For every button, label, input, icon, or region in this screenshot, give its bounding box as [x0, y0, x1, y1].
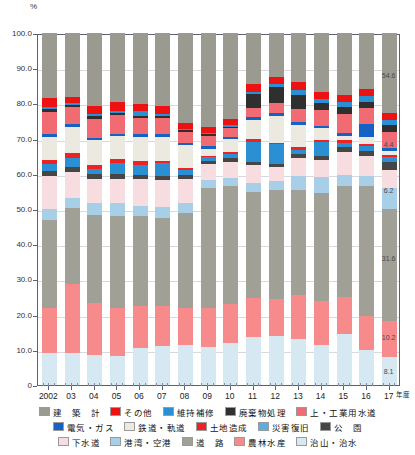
bar-09: [201, 33, 216, 385]
x-axis-minor-tick: [116, 383, 117, 386]
y-axis-tick-label: 100.0: [2, 29, 32, 38]
legend-item[interactable]: 建 築 計: [39, 406, 101, 418]
legend-item[interactable]: 鉄道・軌道: [124, 421, 186, 433]
x-axis-minor-tick: [247, 383, 248, 386]
bar-segment: [155, 106, 170, 114]
x-axis-minor-tick: [71, 383, 72, 386]
x-axis-minor-tick: [43, 383, 44, 386]
bar-16: [359, 33, 374, 385]
legend-item[interactable]: その他: [110, 406, 153, 418]
legend-item[interactable]: 電気・ガス: [53, 421, 115, 433]
legend-item[interactable]: 維持補修: [163, 406, 215, 418]
bar-segment: [65, 127, 80, 153]
bar-segment: [337, 175, 352, 186]
y-axis-tick-label: 30.0: [2, 275, 32, 284]
y-axis-tick-label: 20.0: [2, 311, 32, 320]
bar-segment: [223, 33, 238, 119]
bar-segment: [291, 125, 306, 148]
x-axis-minor-tick: [349, 383, 350, 386]
bar-segment: [246, 192, 261, 298]
x-axis-tick-mark: [116, 386, 117, 390]
bar-04: [87, 33, 102, 385]
bar-segment: [155, 180, 170, 207]
bar-segment: [246, 183, 261, 192]
x-axis-minor-tick: [315, 383, 316, 386]
x-axis-minor-tick: [201, 383, 202, 386]
x-axis-minor-tick: [360, 383, 361, 386]
legend-item[interactable]: 農林水産: [234, 436, 286, 448]
bar-segment: [314, 193, 329, 300]
x-axis-minor-tick: [281, 383, 282, 386]
y-axis-tick-label: 40.0: [2, 240, 32, 249]
x-axis-minor-tick: [372, 383, 373, 386]
x-axis-tick-mark: [162, 386, 163, 390]
bar-segment: [269, 181, 284, 189]
bar-segment: [291, 95, 306, 109]
bar-segment: [42, 33, 57, 98]
bar-05: [110, 33, 125, 385]
y-axis-tick-label: 80.0: [2, 99, 32, 108]
bar-segment: [65, 353, 80, 385]
bar-segment: [87, 355, 102, 385]
bar-segment: [42, 220, 57, 308]
legend-item[interactable]: 治山・治水: [296, 436, 358, 448]
y-axis-tick-label: 0: [2, 381, 32, 390]
bar-segment: [246, 337, 261, 385]
bar-segment: [246, 142, 261, 161]
legend-item[interactable]: 災害復旧: [258, 421, 310, 433]
bar-13: [291, 33, 306, 385]
bar-segment: [359, 108, 374, 124]
bar-segment: [133, 118, 148, 134]
bar-10: [223, 33, 238, 385]
legend-item[interactable]: 土地造成: [196, 421, 248, 433]
bar-segment: [359, 124, 374, 136]
legend-item[interactable]: 道 路: [182, 436, 225, 448]
bar-segment: [65, 33, 80, 97]
bar-segment: [87, 303, 102, 355]
legend-item[interactable]: 廃棄物処理: [225, 406, 287, 418]
bar-segment: [359, 176, 374, 187]
bar-segment: [291, 158, 306, 176]
bar-segment: [87, 140, 102, 165]
x-axis-minor-tick: [162, 383, 163, 386]
x-axis-minor-tick: [394, 383, 395, 386]
legend-item[interactable]: 港湾・空港: [110, 436, 172, 448]
bar-segment: [155, 218, 170, 306]
bar-11: [246, 33, 261, 385]
bar-segment: [201, 308, 216, 347]
legend-item[interactable]: 上・工業用水道: [296, 406, 377, 418]
legend-swatch-icon: [58, 437, 69, 446]
bar-segment: [359, 350, 374, 385]
bar-segment: [223, 162, 238, 179]
bar-segment: [65, 172, 80, 198]
legend-label: 道 路: [196, 436, 225, 448]
bar-segment: [87, 179, 102, 204]
bar-segment: [42, 112, 57, 135]
bar-segment: [337, 33, 352, 95]
x-axis-minor-tick: [213, 383, 214, 386]
legend-swatch-icon: [234, 437, 245, 446]
x-axis-minor-tick: [383, 383, 384, 386]
bar-segment: [178, 345, 193, 385]
bar-segment: [42, 353, 57, 385]
bar-segment: [133, 206, 148, 217]
bar-segment: [269, 116, 284, 142]
bar-14: [314, 33, 329, 385]
chart-legend: 建 築 計その他維持補修廃棄物処理上・工業用水道電気・ガス鉄道・軌道土地造成災害…: [0, 404, 415, 454]
bar-segment: [291, 176, 306, 190]
x-axis-minor-tick: [167, 383, 168, 386]
legend-label: 公 園: [334, 421, 363, 433]
legend-item[interactable]: 公 園: [320, 421, 363, 433]
bar-segment: [246, 94, 261, 108]
bar-segment: [201, 149, 216, 156]
legend-label: 電気・ガス: [67, 421, 115, 433]
bar-segment: [269, 190, 284, 299]
legend-label: 農林水産: [248, 436, 286, 448]
bar-06: [133, 33, 148, 385]
bar-segment: [178, 179, 193, 204]
bar-segment: [133, 104, 148, 111]
bar-segment: [337, 186, 352, 297]
bar-segment: [269, 77, 284, 84]
x-axis-minor-tick: [94, 383, 95, 386]
legend-item[interactable]: 下水道: [58, 436, 101, 448]
